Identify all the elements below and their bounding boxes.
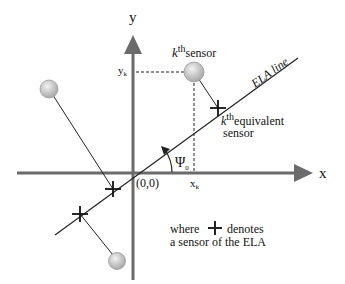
angle-arrowhead (161, 146, 170, 155)
yk-label: yk (118, 64, 128, 78)
y-axis-label: y (129, 9, 137, 25)
legend-where: where (170, 222, 199, 236)
sensor-circle-bottom (109, 253, 126, 270)
equivalent-sensor-cross-left (105, 181, 121, 197)
equivalent-sensor-cross-bottom (72, 206, 88, 222)
legend-denotes: denotes (227, 222, 264, 236)
xk-label: xk (190, 177, 200, 191)
origin-label: (0,0) (136, 176, 159, 190)
kth-sensor-label: kthsensor (172, 43, 216, 60)
projection-line-bottom (80, 214, 117, 260)
angle-label: Ψ0 (175, 155, 189, 172)
angle-arc (165, 150, 172, 172)
ela-line-label: ELA line (248, 54, 292, 91)
x-axis-arrowhead (294, 164, 313, 182)
ela-diagram: x y (0,0) yk xk ELA line Ψ0 kthsensor kt… (0, 0, 345, 284)
legend-line2: a sensor of the ELA (170, 235, 266, 249)
kth-sensor-circle (184, 62, 204, 82)
x-axis-label: x (319, 165, 327, 181)
legend-cross-icon (208, 221, 222, 235)
y-axis-arrowhead (124, 35, 142, 54)
kth-equivalent-sensor-label-line2: sensor (223, 126, 254, 140)
sensor-circle-left (40, 80, 58, 98)
